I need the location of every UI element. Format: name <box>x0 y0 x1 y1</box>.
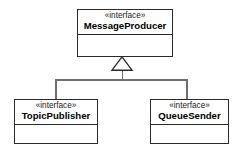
uml-class-diagram: «interface» MessageProducer «interface» … <box>0 0 241 153</box>
class-name-label-messageproducer: MessageProducer <box>82 21 168 31</box>
uml-node-topicpublisher[interactable]: «interface» TopicPublisher <box>14 99 98 144</box>
uml-node-members-compartment-messageproducer <box>78 35 172 56</box>
class-name-label-topicpublisher: TopicPublisher <box>19 111 93 121</box>
generalization-branch-line-topicpublisher <box>55 79 57 99</box>
inheritance-triangle-icon <box>111 56 133 71</box>
uml-node-queuesender[interactable]: «interface» QueueSender <box>150 99 229 144</box>
uml-node-messageproducer[interactable]: «interface» MessageProducer <box>77 9 173 57</box>
uml-node-members-compartment-queuesender <box>151 125 228 143</box>
generalization-branch-line-queuesender <box>186 79 188 99</box>
generalization-horizontal-line <box>55 79 188 81</box>
uml-node-header-messageproducer: «interface» MessageProducer <box>78 10 172 35</box>
uml-node-header-topicpublisher: «interface» TopicPublisher <box>15 100 97 125</box>
class-name-label-queuesender: QueueSender <box>155 111 224 121</box>
uml-node-members-compartment-topicpublisher <box>15 125 97 143</box>
uml-node-header-queuesender: «interface» QueueSender <box>151 100 228 125</box>
